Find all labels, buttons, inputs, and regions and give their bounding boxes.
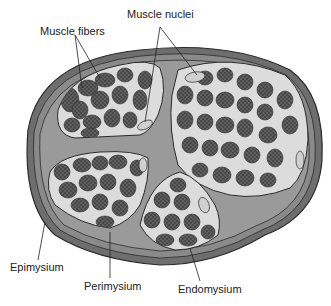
fascicle-right <box>171 62 308 196</box>
muscle-nucleus <box>296 151 304 169</box>
label-endomysium: Endomysium <box>178 283 242 295</box>
label-muscle-nuclei: Muscle nuclei <box>127 8 194 20</box>
label-perimysium: Perimysium <box>84 280 141 292</box>
label-muscle-fibers: Muscle fibers <box>40 25 105 37</box>
muscle-nucleus <box>139 158 147 172</box>
label-epimysium: Epimysium <box>10 261 64 273</box>
